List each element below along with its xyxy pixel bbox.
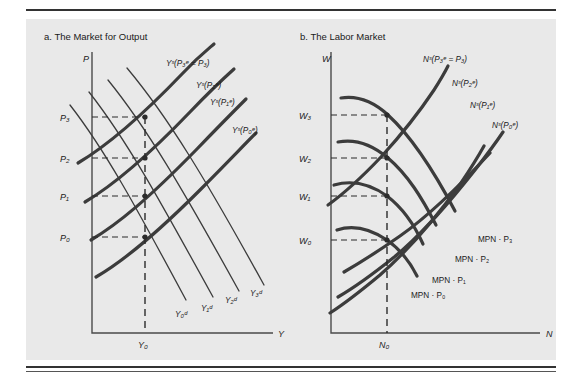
- curve-label-ns3: Nˢ(P₃ᵉ = P₃): [423, 55, 467, 64]
- curve-label-yd2: Y₂ᵈ: [225, 296, 238, 305]
- curve-label-ys3: Yˢ(P₃ᵉ = P₃): [166, 59, 210, 68]
- figure-container: a. The Market for Output P Y: [0, 0, 582, 379]
- panel-b: b. The Labor Market W N: [299, 31, 553, 350]
- curve-label-yd3: Y₃ᵈ: [250, 289, 263, 298]
- curve-label-ns1: Nˢ(P₁ᵉ): [470, 101, 496, 110]
- tick-label-p3: P₃: [60, 113, 70, 123]
- supply-curve-y0: [96, 133, 256, 277]
- curve-label-mpn-p0: MPN · P₀: [411, 291, 445, 300]
- tick-label-y0: Y₀: [138, 340, 148, 350]
- labor-equilibrium-point-2: [384, 155, 389, 160]
- curve-label-mpn-p3: MPN · P₃: [478, 235, 512, 244]
- panel-a-x-axis-label: Y: [278, 329, 285, 339]
- tick-label-w2: W₂: [299, 154, 311, 164]
- labor-equilibrium-point-3: [384, 112, 389, 117]
- curve-label-ns2: Nˢ(P₂ᵉ): [452, 79, 478, 88]
- curve-label-ys1: Yˢ(P₁ᵉ): [210, 98, 235, 107]
- tick-label-w3: W₃: [299, 111, 311, 121]
- panel-b-x-axis-label: N: [546, 329, 553, 339]
- equilibrium-point-2: [142, 155, 147, 160]
- equilibrium-point-1: [142, 193, 147, 198]
- equilibrium-point-3: [142, 114, 147, 119]
- curve-label-ys2: Yˢ(P₂ᵉ): [196, 81, 222, 90]
- panel-b-title: b. The Labor Market: [300, 31, 386, 42]
- tick-label-n0: N₀: [379, 340, 389, 350]
- labor-equilibrium-point-1: [384, 193, 389, 198]
- diagram-svg: a. The Market for Output P Y: [0, 0, 582, 379]
- tick-label-w0: W₀: [299, 236, 311, 246]
- curve-label-yd1: Y₁ᵈ: [201, 304, 213, 313]
- tick-label-p0: P₀: [60, 233, 70, 243]
- curve-label-yd0: Y₀ᵈ: [175, 310, 188, 319]
- labor-demand-mpn-p3: [341, 97, 455, 211]
- tick-label-w1: W₁: [299, 192, 310, 202]
- tick-label-p2: P₂: [60, 154, 70, 164]
- tick-label-p1: P₁: [60, 192, 69, 202]
- equilibrium-point-0: [142, 234, 147, 239]
- curve-label-mpn-p2: MPN · P₂: [455, 255, 489, 264]
- curve-label-mpn-p1: MPN · P₁: [432, 276, 466, 285]
- panel-a: a. The Market for Output P Y: [44, 31, 285, 350]
- panel-a-title: a. The Market for Output: [44, 31, 148, 42]
- demand-curve-y2: [108, 80, 239, 291]
- labor-equilibrium-point-0: [384, 237, 389, 242]
- curve-label-ns0: Nˢ(P₀ᵉ): [492, 121, 518, 130]
- panel-a-y-axis-label: P: [83, 54, 89, 64]
- curve-label-ys0: Yˢ(P₀ᵉ): [232, 126, 258, 135]
